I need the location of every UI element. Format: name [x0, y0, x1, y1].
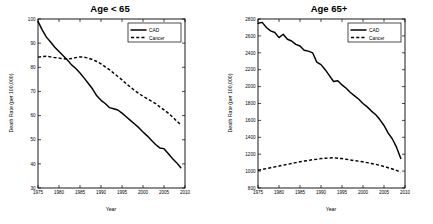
panel-title-left: Age < 65 [90, 3, 130, 14]
y-tick-label: 2600 [245, 34, 256, 39]
x-tick-label: 2010 [400, 190, 411, 195]
series-line-cad-left [38, 21, 181, 167]
x-tick-label: 2000 [138, 190, 149, 195]
y-tick-label: 70 [30, 89, 36, 94]
y-tick-label: 50 [30, 137, 36, 142]
y-tick-label: 60 [30, 113, 36, 118]
x-tick-label: 2000 [358, 190, 369, 195]
y-tick-label: 100 [28, 17, 36, 22]
y-tick-label: 2200 [245, 67, 256, 72]
x-tick-label: 1995 [337, 190, 348, 195]
legend-label-cad-left: CAD [149, 28, 160, 33]
y-tick-label: 2000 [245, 84, 256, 89]
legend-label-cancer-left: Cancer [149, 36, 165, 41]
series-line-cancer-left [38, 56, 181, 125]
x-tick-label: 2005 [159, 190, 170, 195]
y-tick-label: 1800 [245, 101, 256, 106]
x-tick-label: 1985 [75, 190, 86, 195]
plot-area-right: 8001000120014001600180020002200240026002… [245, 17, 410, 196]
panel-title-right: Age 65+ [311, 3, 348, 14]
chart-svg-right: Age 65+ 80010001200140016001800200022002… [216, 0, 432, 224]
y-tick-label: 2800 [245, 17, 256, 22]
y-tick-label: 1400 [245, 135, 256, 140]
legend-label-cancer-right: Cancer [369, 36, 385, 41]
plot-area-left: 30405060708090100 1975198019851990199520… [28, 17, 191, 196]
chart-svg-left: Age < 65 30405060708090100 1975198019851… [0, 0, 216, 224]
x-tick-label: 1980 [274, 190, 285, 195]
y-axis-label-left: Death Rate (per 100,000) [8, 73, 14, 132]
series-line-cancer-right [258, 158, 401, 173]
x-tick-label: 1990 [96, 190, 107, 195]
legend-label-cad-right: CAD [369, 28, 380, 33]
x-tick-label: 1990 [316, 190, 327, 195]
y-axis-ticks-right: 8001000120014001600180020002200240026002… [245, 17, 405, 191]
x-tick-label: 1985 [295, 190, 306, 195]
y-tick-label: 1000 [245, 169, 256, 174]
x-tick-label: 2005 [379, 190, 390, 195]
x-tick-label: 1975 [33, 190, 44, 195]
y-tick-label: 40 [30, 162, 36, 167]
legend-right[interactable]: CAD Cancer [348, 23, 401, 42]
y-tick-label: 90 [30, 41, 36, 46]
x-tick-label: 1975 [253, 190, 264, 195]
axes-frame-right [258, 19, 405, 188]
axes-frame-left [38, 19, 185, 188]
x-axis-label-right: Year [326, 206, 337, 212]
y-tick-label: 2400 [245, 51, 256, 56]
panel-age-under-65: Age < 65 30405060708090100 1975198019851… [0, 0, 216, 224]
x-axis-ticks-left: 19751980198519901995200020052010 [33, 19, 191, 195]
x-axis-label-left: Year [106, 206, 117, 212]
figure-two-panel-line-charts: Age < 65 30405060708090100 1975198019851… [0, 0, 433, 224]
y-tick-label: 80 [30, 65, 36, 70]
x-tick-label: 2010 [180, 190, 191, 195]
y-tick-label: 1600 [245, 118, 256, 123]
x-tick-label: 1980 [54, 190, 65, 195]
series-line-cad-right [258, 22, 401, 158]
y-axis-label-right: Death Rate (per 100,000) [227, 73, 233, 132]
y-tick-label: 1200 [245, 152, 256, 157]
x-axis-ticks-right: 19751980198519901995200020052010 [253, 19, 411, 195]
legend-left[interactable]: CAD Cancer [128, 23, 181, 42]
panel-age-65-plus: Age 65+ 80010001200140016001800200022002… [216, 0, 432, 224]
x-tick-label: 1995 [117, 190, 128, 195]
